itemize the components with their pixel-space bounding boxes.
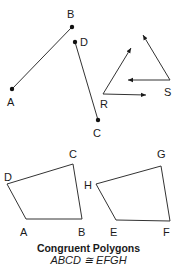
segment-cd [75, 42, 98, 120]
caption-statement: ABCD ≅ EFGH [0, 254, 177, 267]
quadrilateral-efgh [96, 166, 170, 221]
point-c [96, 118, 100, 122]
label-quad-d: D [4, 171, 12, 183]
label-quad-f: F [163, 226, 170, 238]
quadrilateral-abcd [7, 164, 82, 219]
ray-s-up [143, 35, 170, 80]
label-b: B [67, 8, 74, 20]
segment-ab [12, 27, 72, 89]
label-quad-h: H [84, 179, 92, 191]
label-quad-e: E [110, 226, 117, 238]
point-d [73, 40, 77, 44]
ray-r-up [103, 48, 131, 94]
label-c: C [93, 127, 101, 139]
label-r: R [100, 98, 108, 110]
label-quad-g: G [157, 148, 166, 160]
label-quad-c: C [69, 148, 77, 160]
label-a: A [7, 96, 15, 108]
point-a [10, 87, 14, 91]
label-quad-a: A [20, 226, 28, 238]
ray-r-right [103, 94, 146, 95]
geometry-figure: A B D C R S A B C D E F G H [0, 0, 177, 269]
caption-title: Congruent Polygons [0, 242, 177, 254]
point-b [70, 25, 74, 29]
label-d: D [80, 36, 88, 48]
label-quad-b: B [78, 226, 85, 238]
label-s: S [164, 86, 171, 98]
